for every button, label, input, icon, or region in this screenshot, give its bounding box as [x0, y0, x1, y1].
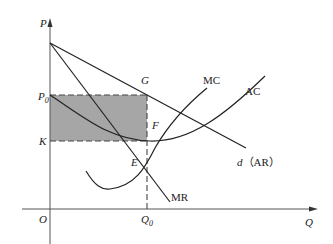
mr-label: MR — [171, 191, 189, 203]
q0-subscript: 0 — [149, 219, 153, 228]
p0-subscript: 0 — [45, 96, 49, 105]
demand-ar: （AR） — [243, 156, 280, 168]
y-axis-label: P — [39, 17, 47, 29]
x-axis-label: Q — [305, 216, 313, 228]
p0-label: P0 — [37, 90, 49, 105]
point-f-label: F — [151, 119, 159, 131]
k-label: K — [38, 135, 47, 147]
q0-label: Q0 — [141, 213, 153, 228]
point-e-label: E — [130, 156, 138, 168]
mc-label: MC — [203, 74, 220, 86]
profit-area — [50, 95, 147, 141]
q0-main: Q — [141, 213, 149, 225]
ac-label: AC — [245, 85, 260, 97]
x-axis-arrow-icon — [309, 207, 318, 212]
monopoly-diagram: P O Q P0 K Q0 G F E MC AC MR d（AR） — [0, 0, 333, 244]
origin-label: O — [39, 213, 47, 225]
demand-label: d（AR） — [237, 156, 280, 168]
y-axis-arrow-icon — [48, 18, 53, 27]
point-g-label: G — [141, 74, 149, 86]
